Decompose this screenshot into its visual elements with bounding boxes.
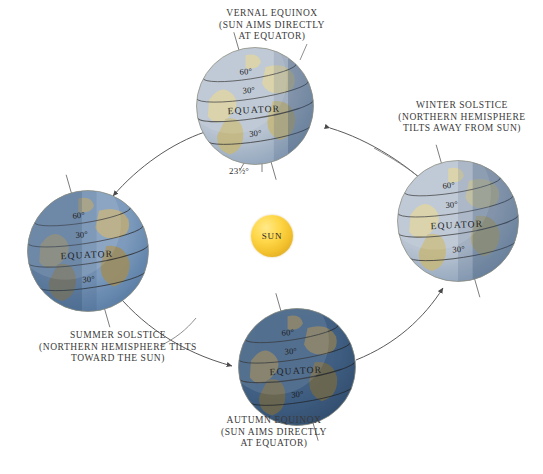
sun: SUN [251, 215, 293, 257]
svg-text:30°: 30° [291, 389, 304, 400]
orbit-arc-top-left [113, 132, 205, 196]
svg-text:60°: 60° [281, 327, 294, 338]
label-summer-solstice: SUMMER SOLSTICE (NORTHERN HEMISPHERE TIL… [20, 330, 216, 365]
globe-winter-solstice: 60°30°EQUATOR30° [397, 160, 519, 282]
label-winter-solstice: WINTER SOLSTICE (NORTHERN HEMISPHERE TIL… [382, 100, 542, 135]
svg-text:30°: 30° [452, 244, 465, 255]
globe-autumn-equinox: 60°30°EQUATOR30° [238, 308, 356, 426]
svg-text:30°: 30° [242, 85, 255, 96]
globe-vernal-equinox: 60°30°EQUATOR30° [196, 47, 314, 165]
seasons-diagram: SUN 23½° [0, 0, 543, 474]
label-vernal-equinox: VERNAL EQUINOX (SUN AIMS DIRECTLY AT EQU… [182, 8, 362, 43]
svg-text:30°: 30° [82, 274, 95, 285]
svg-text:60°: 60° [442, 180, 455, 191]
orbit-arc-bottom-right [356, 288, 443, 360]
svg-text:60°: 60° [72, 210, 85, 221]
label-autumn-equinox: AUTUMN EQUINOX (SUN AIMS DIRECTLY AT EQU… [184, 415, 364, 450]
svg-text:60°: 60° [239, 66, 252, 77]
sun-label: SUN [251, 231, 293, 241]
sun-disc: SUN [251, 215, 293, 257]
svg-text:30°: 30° [284, 346, 297, 357]
svg-text:30°: 30° [445, 199, 458, 210]
svg-text:30°: 30° [249, 128, 262, 139]
axial-tilt-label: 23½° [229, 166, 249, 176]
globe-summer-solstice: 60°30°EQUATOR30° [27, 190, 149, 312]
svg-text:30°: 30° [75, 229, 88, 240]
